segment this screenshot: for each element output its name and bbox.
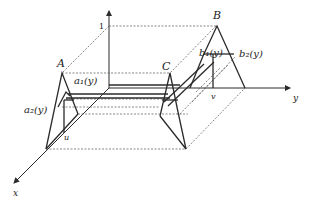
point-a-label: A [56, 57, 65, 70]
y-axis-label: y [292, 93, 299, 103]
a1-label: a₁(y) [74, 75, 98, 86]
b2-label: b₂(y) [239, 48, 263, 59]
a2-label: a₂(y) [24, 104, 48, 115]
u-label: u [64, 133, 69, 142]
point-b-label: B [212, 9, 221, 22]
x-axis-label: x [13, 188, 18, 198]
tick-label-one: 1 [99, 22, 104, 31]
point-c-label: C [162, 60, 171, 73]
fuzzy-membership-diagram: 1 A B C a₁(y) a₂(y) b₁(y) b₂(y) u v y x [0, 0, 312, 207]
x-axis [14, 88, 109, 183]
connector-bands [66, 85, 180, 98]
b1-label: b₁(y) [199, 47, 223, 58]
v-label: v [211, 92, 216, 101]
axes [14, 11, 290, 183]
shape-c [160, 62, 214, 149]
